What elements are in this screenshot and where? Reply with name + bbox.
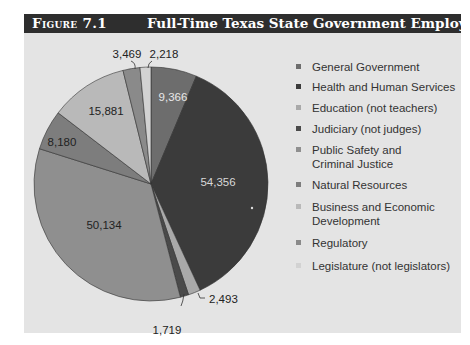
label-public-safety: 50,134: [86, 219, 122, 231]
label-education: 2,493: [209, 293, 238, 305]
legend-swatch: [296, 84, 301, 89]
leader-education: [198, 293, 205, 298]
legend-swatch: [296, 126, 301, 131]
leader-regulatory: [131, 61, 135, 69]
label-legislature: 2,218: [150, 48, 179, 60]
legend-swatch: [296, 147, 301, 152]
pie-chart: 9,366 54,356 2,493 1,719 50,134 8,180 15…: [0, 0, 470, 345]
legend-swatch: [296, 240, 301, 245]
label-natural-resources: 8,180: [48, 136, 77, 148]
legend-swatch: [296, 105, 301, 110]
label-regulatory: 3,469: [113, 48, 142, 60]
legend-swatch: [296, 182, 301, 187]
label-health-human-services: 54,356: [200, 176, 235, 188]
speck: [251, 207, 253, 209]
legend-swatch: [296, 204, 301, 209]
label-business: 15,881: [88, 105, 123, 117]
legend-swatch: [296, 64, 301, 69]
label-judiciary: 1,719: [153, 324, 182, 336]
legend-swatch: [296, 263, 301, 268]
label-general-government: 9,366: [159, 91, 188, 103]
